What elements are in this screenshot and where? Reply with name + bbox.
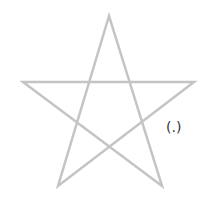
diagram-label: (.) [166, 119, 181, 135]
star-diagram [0, 0, 211, 210]
pentagram-shape [23, 16, 194, 186]
